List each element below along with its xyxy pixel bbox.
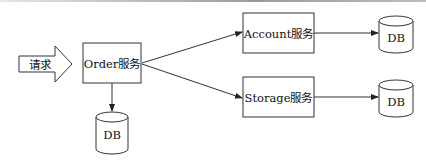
edge-order-storage [142,64,242,98]
account-service-label: Account服务 [243,13,314,53]
order-db-label: DB [96,124,128,146]
storage-db-label: DB [379,91,413,113]
account-db-label: DB [379,27,413,49]
edge-order-account [142,32,242,63]
request-label: 请求 [19,56,61,72]
storage-service-label: Storage服务 [243,77,314,117]
order-service-label: Order服务 [83,43,141,83]
diagram-canvas [0,0,426,162]
